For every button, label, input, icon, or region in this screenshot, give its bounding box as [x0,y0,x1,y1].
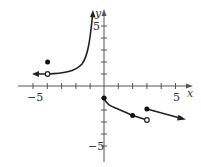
middle-branch-curve [104,98,147,120]
closed-point-neg4-2 [45,60,50,65]
closed-point-3-neg2 [144,107,149,112]
x-tick-label-5: 5 [173,91,180,104]
left-branch-curve [37,16,93,74]
closed-point-0-neg1 [102,96,107,101]
y-tick-label-5: 5 [93,20,100,33]
open-point-neg4-1 [45,72,50,77]
right-ray-arrow-icon [177,115,186,121]
y-axis-arrow-icon [102,9,107,16]
left-branch-left-arrow-icon [32,71,39,77]
y-axis-label: y [94,7,102,20]
closed-point-2-neg2-5 [130,113,135,118]
x-axis-label: x [187,87,194,100]
function-graph: −5 5 x 5 −5 y [0,0,201,167]
x-tick-label-neg5: −5 [27,91,43,104]
y-tick-label-neg5: −5 [88,140,104,153]
right-ray-line [147,109,180,118]
open-point-3-neg3 [145,118,150,123]
